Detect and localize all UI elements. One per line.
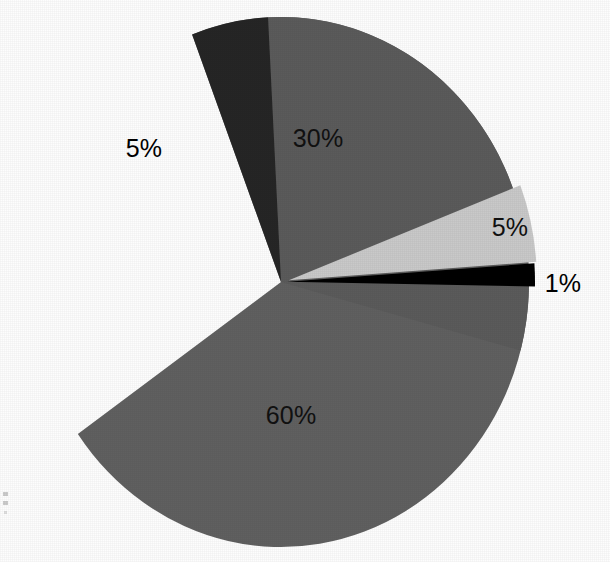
scan-artifact-mark xyxy=(3,501,8,505)
slice-label-5-light: 5% xyxy=(492,213,529,241)
pie-slice-5-dark[interactable] xyxy=(192,17,281,282)
slice-label-1: 1% xyxy=(545,269,582,297)
scan-artifact-mark xyxy=(3,492,8,496)
slice-label-5-dark: 5% xyxy=(126,134,163,162)
pie-chart: 30% 5% 60% 5% 1% xyxy=(0,0,610,562)
slice-label-30: 30% xyxy=(293,124,344,152)
pie-chart-page: 30% 5% 60% 5% 1% xyxy=(0,0,610,562)
scan-artifact-mark xyxy=(4,511,7,514)
slice-label-60: 60% xyxy=(266,401,317,429)
